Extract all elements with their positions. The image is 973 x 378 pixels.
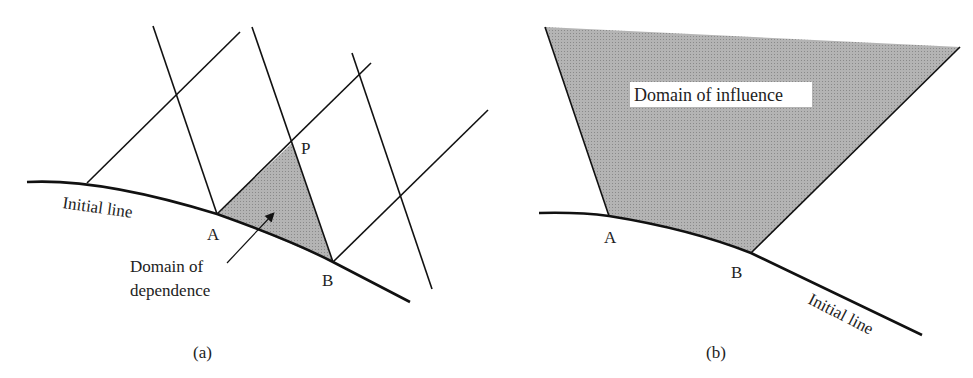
panel-b: Domain of influence A B Initial line (b) — [539, 27, 960, 362]
annotation-line-1: Domain of — [130, 257, 204, 276]
initial-line-label: Initial line — [61, 193, 133, 222]
characteristic-line — [153, 26, 217, 214]
point-a-label: A — [604, 228, 617, 247]
domain-of-dependence-region — [217, 143, 333, 262]
characteristic-line — [352, 53, 432, 289]
characteristic-line — [333, 110, 488, 262]
caption-b: (b) — [706, 343, 726, 362]
point-a-label: A — [207, 225, 220, 244]
point-b-label: B — [731, 263, 742, 282]
caption-a: (a) — [193, 343, 212, 362]
annotation-line-2: dependence — [130, 281, 210, 300]
panel-a: Initial line A B P Domain of dependence … — [27, 26, 488, 362]
point-b-label: B — [322, 271, 333, 290]
point-p-label: P — [301, 139, 310, 158]
region-label: Domain of influence — [634, 85, 783, 105]
domain-of-influence-region — [545, 27, 960, 253]
characteristics-diagram: Initial line A B P Domain of dependence … — [0, 0, 973, 378]
